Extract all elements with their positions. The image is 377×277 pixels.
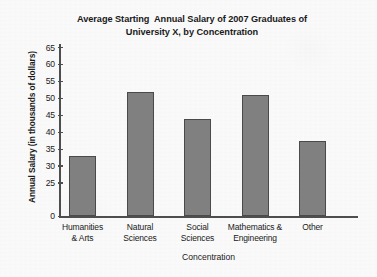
y-tick-40 [58,132,63,133]
y-tick-55 [58,81,63,82]
chart-title: Average Starting Annual Salary of 2007 G… [52,13,332,38]
bar-3 [242,95,269,216]
plot-area: 0253035404550556065 [59,44,358,218]
y-tick-label-35: 35 [15,145,55,154]
y-tick-label-65: 65 [15,44,55,53]
y-tick-label-60: 60 [15,60,55,69]
y-tick-60 [58,64,63,65]
y-tick-25 [58,182,63,183]
bar-1 [127,92,154,217]
y-tick-label-25: 25 [15,179,55,188]
y-tick-0 [58,216,63,217]
bar-chart-figure: Average Starting Annual Salary of 2007 G… [0,0,377,277]
category-label-4: Other [268,222,358,233]
y-tick-label-40: 40 [15,128,55,137]
y-tick-label-30: 30 [15,162,55,171]
y-tick-35 [58,149,63,150]
x-axis-title: Concentration [59,252,358,262]
y-tick-label-50: 50 [15,94,55,103]
y-tick-50 [58,98,63,99]
bar-2 [184,119,211,217]
y-tick-label-0: 0 [15,212,55,221]
y-tick-45 [58,115,63,116]
bar-4 [299,141,326,217]
y-tick-65 [58,47,63,48]
y-tick-30 [58,165,63,166]
y-tick-label-55: 55 [15,77,55,86]
bar-0 [69,156,96,216]
y-tick-label-45: 45 [15,111,55,120]
x-axis-line [59,216,358,218]
